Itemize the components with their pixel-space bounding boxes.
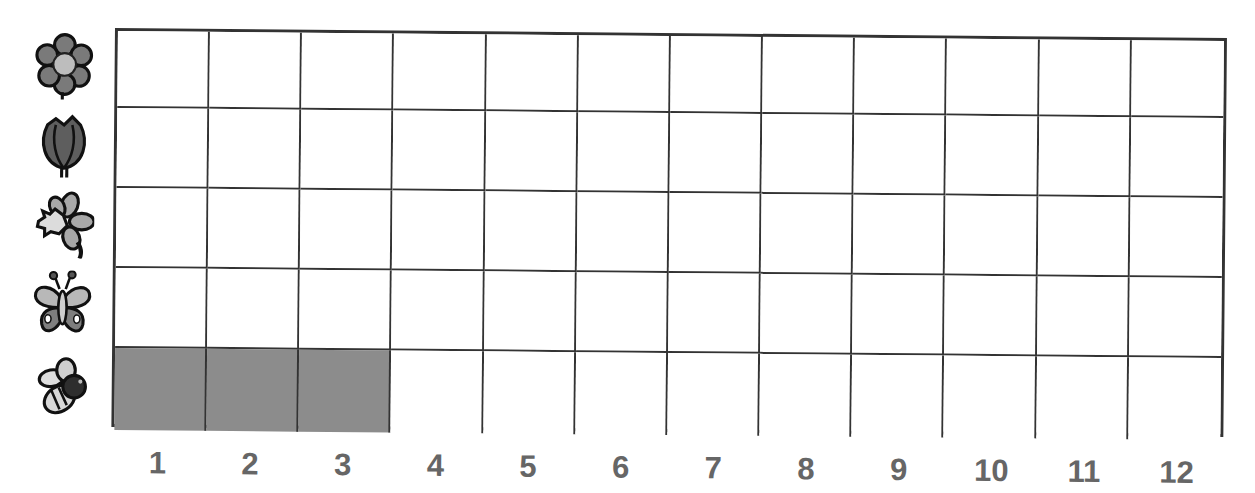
grid-cell-tulip-4 (393, 111, 486, 192)
grid-cell-bee-9 (852, 355, 945, 438)
grid-cell-butterfly-3 (299, 270, 392, 351)
grid-cell-butterfly-2 (207, 269, 300, 350)
grid-cell-butterfly-5 (484, 271, 577, 352)
grid-cell-bee-3 (299, 350, 392, 433)
grid-cell-flower-3 (302, 33, 395, 111)
grid-cell-tulip-7 (670, 113, 763, 194)
grid-cell-flower-9 (855, 38, 948, 116)
grid-cell-bee-10 (944, 356, 1037, 439)
grid-cell-flower-6 (578, 35, 671, 113)
grid-cell-butterfly-11 (1037, 276, 1130, 357)
grid-cell-tulip-9 (854, 115, 947, 196)
grid-cell-daffodil-12 (1130, 197, 1223, 278)
grid-cell-daffodil-2 (208, 189, 301, 270)
grid-cell-bee-6 (575, 352, 668, 435)
grid-cell-tulip-1 (117, 108, 210, 189)
grid-cell-bee-7 (667, 353, 760, 436)
x-label: 8 (759, 444, 852, 493)
flower-icon (24, 27, 105, 105)
x-label: 1 (111, 438, 204, 489)
grid-cell-butterfly-10 (945, 276, 1038, 357)
daffodil-icon (23, 184, 104, 265)
x-label: 7 (667, 443, 760, 493)
x-label: 10 (945, 446, 1038, 493)
grid-cell-daffodil-1 (116, 188, 209, 269)
grid-cell-tulip-3 (301, 110, 394, 191)
grid-cell-flower-2 (209, 32, 302, 110)
x-axis-labels: 123456789101112 (111, 438, 1223, 493)
x-label: 11 (1037, 446, 1130, 493)
x-label: 3 (296, 440, 389, 491)
grid-cell-bee-1 (114, 348, 207, 431)
grid-cell-daffodil-5 (484, 191, 577, 272)
grid-cell-tulip-10 (946, 116, 1039, 197)
tally-grid (111, 28, 1227, 437)
grid-cell-flower-11 (1039, 39, 1132, 117)
grid-cell-bee-11 (1036, 356, 1129, 439)
grid-cell-butterfly-4 (392, 271, 485, 352)
grid-cell-daffodil-11 (1037, 196, 1130, 277)
x-label: 2 (203, 439, 296, 490)
grid-cell-tulip-2 (209, 109, 302, 190)
grid-cell-daffodil-7 (669, 193, 762, 274)
row-icons (21, 27, 105, 427)
grid-cell-butterfly-1 (115, 268, 208, 349)
grid-cell-butterfly-12 (1129, 277, 1222, 358)
grid-cell-bee-4 (391, 351, 484, 434)
x-label: 4 (389, 441, 482, 492)
grid-cell-tulip-11 (1038, 116, 1131, 197)
grid-cell-flower-10 (947, 39, 1040, 117)
grid-cell-flower-4 (394, 34, 487, 112)
bee-icon (21, 344, 102, 427)
grid-cell-daffodil-8 (761, 194, 854, 275)
grid-cell-butterfly-6 (576, 272, 669, 353)
grid-cell-tulip-5 (485, 111, 578, 192)
grid-cell-tulip-8 (762, 114, 855, 195)
grid-cell-daffodil-3 (300, 190, 393, 271)
grid-cell-flower-12 (1131, 40, 1224, 118)
butterfly-icon (22, 264, 103, 345)
grid-cell-flower-5 (486, 34, 579, 112)
grid-cell-tulip-6 (577, 112, 670, 193)
grid-cell-butterfly-9 (852, 275, 945, 356)
grid-cell-butterfly-8 (760, 274, 853, 355)
grid-cell-butterfly-7 (668, 273, 761, 354)
grid-cell-bee-2 (207, 349, 300, 432)
x-label: 6 (574, 442, 667, 493)
grid-cell-tulip-12 (1130, 117, 1223, 198)
grid-cell-bee-5 (483, 351, 576, 434)
tulip-icon (24, 104, 105, 185)
grid-cell-daffodil-6 (577, 192, 670, 273)
x-label: 5 (481, 441, 574, 492)
x-label: 12 (1130, 447, 1223, 493)
grid-cell-flower-1 (117, 31, 210, 109)
grid-cell-flower-8 (762, 37, 855, 115)
grid-cell-daffodil-10 (945, 196, 1038, 277)
grid-cell-bee-12 (1128, 357, 1221, 440)
grid-cell-daffodil-4 (392, 191, 485, 272)
x-label: 9 (852, 445, 945, 493)
pictograph-chart: 123456789101112 (0, 0, 1255, 493)
grid-cell-flower-7 (670, 36, 763, 114)
grid-cell-bee-8 (759, 354, 852, 437)
grid-cell-daffodil-9 (853, 195, 946, 276)
